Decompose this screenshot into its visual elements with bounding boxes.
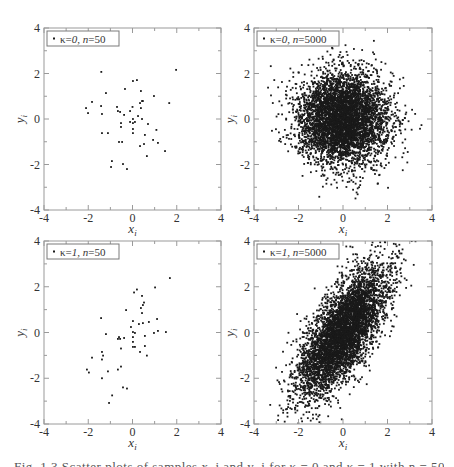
data-point [300,116,302,118]
data-point [313,395,315,397]
data-point [329,373,331,375]
data-point [318,421,320,423]
data-point [324,144,326,146]
data-point [346,310,348,312]
data-point [376,79,378,81]
data-point [371,320,373,322]
data-point [381,331,383,333]
data-point [304,387,306,389]
data-point [360,331,362,333]
data-point [353,138,355,140]
data-point [383,323,385,325]
data-point [329,117,331,119]
data-point [370,167,372,169]
data-point [314,341,316,343]
data-point [350,94,352,96]
data-point [342,96,344,98]
data-point [335,70,337,72]
data-point [328,148,330,150]
data-point [318,347,320,349]
data-point [299,349,301,351]
data-point [328,386,330,388]
data-point [325,392,327,394]
data-point [390,98,392,100]
data-point [350,289,352,291]
data-point [314,106,316,108]
data-point [307,343,309,345]
data-point [315,93,317,95]
data-point [286,86,288,88]
data-point [333,334,335,336]
data-point [378,124,380,126]
data-point [327,132,329,134]
data-point [340,347,342,349]
data-point [356,265,358,267]
data-point [337,358,339,360]
data-point [375,119,377,121]
data-point [322,386,324,388]
data-point [386,269,388,271]
data-point [360,354,362,356]
data-point [296,410,298,412]
data-point [368,129,370,131]
data-point [320,157,322,159]
data-point [323,333,325,335]
data-point [338,73,340,75]
data-point [308,120,310,122]
data-point [320,69,322,71]
data-point [358,282,360,284]
data-point [399,121,401,123]
data-point [313,316,315,318]
data-point [400,267,402,269]
data-point [294,407,296,409]
data-point [376,274,378,276]
data-point [343,316,345,318]
data-point [397,257,399,259]
data-point [321,94,323,96]
data-point [338,303,340,305]
data-point [298,152,300,154]
data-point [341,57,343,59]
data-point [357,187,359,189]
data-point [347,141,349,143]
data-point [140,307,142,309]
data-point [330,292,332,294]
data-point [348,344,350,346]
data-point [350,76,352,78]
data-point [302,393,304,395]
data-point [374,323,376,325]
data-point [313,86,315,88]
data-point [366,99,368,101]
data-point [310,171,312,173]
data-point [332,127,334,129]
data-point [307,352,309,354]
data-point [368,93,370,95]
data-point [321,175,323,177]
data-point [377,297,379,299]
data-point [334,319,336,321]
data-point [301,138,303,140]
data-point [333,117,335,119]
data-point [340,97,342,99]
data-point [289,395,291,397]
data-point [314,159,316,161]
data-point [347,261,349,263]
data-point [132,128,134,130]
data-point [349,393,351,395]
data-point [346,118,348,120]
data-point [309,86,311,88]
data-point [355,344,357,346]
data-point [362,331,364,333]
data-point [361,290,363,292]
data-point [398,244,400,246]
data-point [361,311,363,313]
data-point [296,92,298,94]
data-point [148,321,150,323]
data-point [362,72,364,74]
data-point [376,159,378,161]
data-point [101,351,103,353]
data-point [307,328,309,330]
y-tick-label: 2 [244,280,250,294]
data-point [326,359,328,361]
data-point [363,286,365,288]
